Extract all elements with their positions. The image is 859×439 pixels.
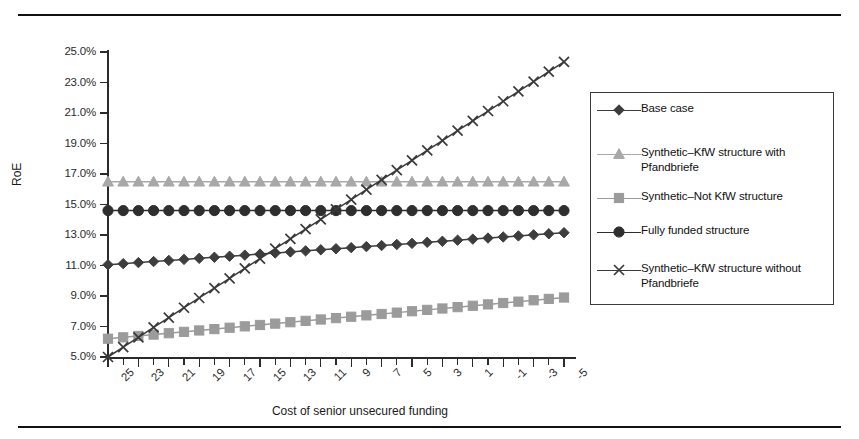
x-tick-label: 23 [149,366,167,384]
x-tick-mark [533,358,534,367]
y-tick-mark [100,143,108,144]
x-tick-label: 1 [482,366,495,379]
y-tick-label-holder: 11.0% [40,266,98,278]
x-tick-mark [199,358,200,367]
y-tick-label: 21.0% [40,106,96,118]
y-tick-mark [100,295,108,296]
x-tick-mark [290,358,291,367]
x-tick-mark [503,358,504,367]
y-tick-label: 11.0% [40,259,96,271]
y-tick-mark [100,326,108,327]
legend-label: Base case [641,101,694,116]
x-tick-label: 19 [210,366,228,384]
y-tick-label-holder: 17.0% [40,174,98,186]
x-tick-label: 5 [421,366,434,379]
x-tick-mark [259,358,260,367]
legend-label: Synthetic–Not KfW structure [641,189,783,204]
x-tick-mark [229,358,230,367]
x-tick-mark [275,358,276,365]
x-tick-mark [168,358,169,367]
y-tick-mark [100,204,108,205]
x-tick-mark [442,358,443,367]
y-tick-mark [100,51,108,52]
y-tick-label: 9.0% [40,289,96,301]
y-tick-mark [100,112,108,113]
y-tick-label-holder: 25.0% [40,52,98,64]
x-tick-mark [305,358,306,365]
x-tick-mark [183,358,184,365]
x-tick-mark [487,358,488,365]
x-axis-title: Cost of senior unsecured funding [210,404,510,418]
y-tick-label: 25.0% [40,45,96,57]
x-tick-label: 3 [451,366,464,379]
x-tick-label: 17 [240,366,258,384]
x-tick-mark [518,358,519,365]
x-tick-mark [366,358,367,365]
legend-marker-square-icon [597,190,641,206]
y-tick-label: 13.0% [40,228,96,240]
legend-item[interactable]: Synthetic–Not KfW structure [597,189,829,206]
x-tick-label: 7 [390,366,403,379]
x-tick-mark [563,358,564,367]
x-tick-mark [457,358,458,365]
y-axis-title: RoE [10,163,24,186]
y-tick-label: 23.0% [40,76,96,88]
y-tick-label: 5.0% [40,350,96,362]
legend-item[interactable]: Fully funded structure [597,223,829,240]
x-axis-line [107,357,576,359]
x-tick-mark [472,358,473,367]
legend-marker-circle-icon [597,224,641,240]
x-tick-mark [351,358,352,367]
x-tick-mark [396,358,397,365]
y-tick-label: 17.0% [40,167,96,179]
y-tick-mark [100,173,108,174]
x-tick-mark [107,358,108,367]
y-tick-label-holder: 7.0% [40,327,98,339]
legend-label: Synthetic–KfW structure without Pfandbri… [641,261,829,290]
x-tick-label: 25 [119,366,137,384]
x-tick-mark [381,358,382,367]
plot-area [108,52,574,357]
legend-label: Fully funded structure [641,223,749,238]
x-tick-mark [123,358,124,365]
y-tick-label-holder: 21.0% [40,113,98,125]
x-tick-label: 11 [331,366,348,383]
x-tick-label: -3 [544,366,560,382]
y-tick-label-holder: 5.0% [40,357,98,369]
y-tick-label-holder: 9.0% [40,296,98,308]
x-tick-label: 9 [360,366,373,379]
x-tick-mark [153,358,154,365]
x-tick-mark [548,358,549,365]
y-tick-label-holder: 15.0% [40,205,98,217]
y-tick-mark [100,265,108,266]
x-tick-mark [320,358,321,367]
x-tick-label: -1 [513,366,529,382]
x-tick-mark [244,358,245,365]
y-tick-mark [100,234,108,235]
legend-marker-diamond-icon [597,102,641,118]
y-tick-label: 15.0% [40,198,96,210]
x-tick-mark [138,358,139,367]
y-tick-label: 7.0% [40,320,96,332]
legend-label: Synthetic–KfW structure with Pfandbriefe [641,145,829,174]
legend-marker-x-icon [597,262,641,278]
y-tick-label: 19.0% [40,137,96,149]
x-tick-mark [335,358,336,365]
y-tick-label-holder: 23.0% [40,83,98,95]
x-tick-mark [214,358,215,365]
y-tick-mark [100,82,108,83]
x-tick-mark [411,358,412,367]
legend-item[interactable]: Synthetic–KfW structure with Pfandbriefe [597,145,829,174]
legend-marker-triangle-icon [597,146,641,162]
legend-item[interactable]: Synthetic–KfW structure without Pfandbri… [597,261,829,290]
y-tick-label-holder: 13.0% [40,235,98,247]
y-tick-label-holder: 19.0% [40,144,98,156]
chart-legend[interactable]: Base caseSynthetic–KfW structure with Pf… [590,92,834,305]
x-tick-label: -5 [574,366,590,382]
x-tick-label: 15 [271,366,289,384]
figure-container: 25.0%23.0%21.0%19.0%17.0%15.0%13.0%11.0%… [0,0,859,439]
legend-item[interactable]: Base case [597,101,829,118]
x-tick-label: 21 [180,366,198,384]
x-tick-label: 13 [301,366,319,384]
x-tick-mark [427,358,428,365]
